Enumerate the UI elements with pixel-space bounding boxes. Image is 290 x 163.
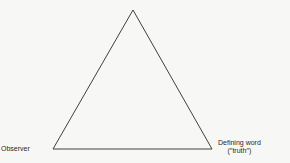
triangle — [53, 10, 212, 149]
observer-label: Observer — [1, 145, 30, 153]
defining-word-line1: Defining word — [218, 139, 261, 147]
defining-word-label: Defining word (′′truth′′) — [218, 139, 261, 155]
defining-word-line2: (′′truth′′) — [218, 147, 261, 155]
